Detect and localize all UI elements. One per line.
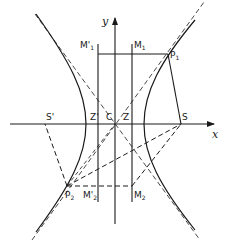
c-label: C xyxy=(106,112,112,122)
p2-label: P2 xyxy=(65,190,74,201)
hyperbola-diagram: y x M'1 M1 P1 S' Z' C Z S P2 M'2 M2 xyxy=(0,0,228,251)
m2-prime-label: M'2 xyxy=(83,190,97,201)
m2-to-s xyxy=(132,124,181,186)
asymptote-positive xyxy=(32,2,204,240)
p1-to-s xyxy=(168,54,181,124)
y-axis-label: y xyxy=(101,15,109,28)
z-label: Z xyxy=(123,112,129,122)
m1-label: M1 xyxy=(134,40,146,51)
s-label: S xyxy=(182,112,188,122)
m2-label: M2 xyxy=(134,190,146,201)
s-prime-label: S' xyxy=(46,112,54,122)
p2-to-s-prime xyxy=(45,124,67,186)
m1-prime-label: M'1 xyxy=(80,40,94,51)
p1-label: P1 xyxy=(170,50,179,61)
p2-to-s xyxy=(67,124,181,186)
z-prime-label: Z' xyxy=(90,112,99,122)
p2-to-c xyxy=(67,124,115,186)
x-axis-label: x xyxy=(212,128,219,141)
